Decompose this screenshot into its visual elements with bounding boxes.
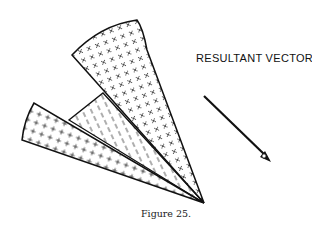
figure-diagram	[0, 0, 312, 226]
resultant-vector-arrow	[204, 96, 266, 156]
resultant-vector-label: RESULTANT VECTOR	[196, 52, 312, 64]
figure-caption: Figure 25.	[141, 208, 191, 219]
